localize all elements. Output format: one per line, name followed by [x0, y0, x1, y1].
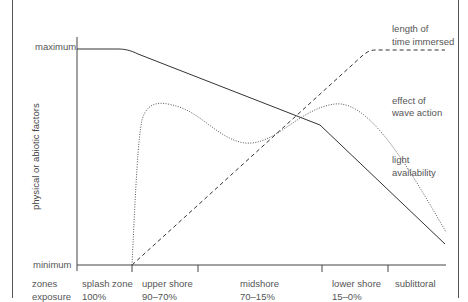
zone-lower-shore: lower shore — [332, 278, 381, 289]
zone-splash: splash zone — [82, 278, 133, 289]
exposure-upper-shore: 90–70% — [142, 291, 177, 302]
light-availability-line — [77, 49, 445, 244]
legend-time-immersed-line2: time immersed — [392, 36, 454, 47]
y-axis-title: physical or abiotic factors — [30, 103, 41, 210]
zones-row-label: zones — [32, 278, 57, 289]
zone-upper-shore: upper shore — [142, 278, 193, 289]
y-tick-minimum: minimum — [33, 259, 72, 270]
legend-time-immersed-line1: length of — [392, 23, 428, 34]
legend-wave-action-line2: wave action — [392, 107, 442, 118]
zone-midshore: midshore — [240, 278, 279, 289]
zone-sublittoral: sublittoral — [395, 278, 436, 289]
exposure-splash: 100% — [82, 291, 106, 302]
y-tick-maximum: maximum — [35, 41, 76, 52]
wave-action-line — [132, 103, 446, 265]
legend-wave-action-line1: effect of — [392, 95, 426, 106]
exposure-row-label: exposure — [32, 291, 71, 302]
legend-light-line1: light — [392, 154, 409, 165]
exposure-midshore: 70–15% — [240, 291, 275, 302]
legend-light-line2: availability — [392, 167, 436, 178]
exposure-lower-shore: 15–0% — [332, 291, 362, 302]
